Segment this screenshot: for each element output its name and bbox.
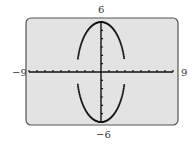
calculator-screen [0,0,195,145]
